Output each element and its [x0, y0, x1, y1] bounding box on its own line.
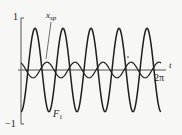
series-label-xsp: xsp [46, 11, 56, 22]
series-label-f1: F1 [53, 109, 63, 121]
x-axis-label: t [169, 61, 172, 70]
xsp-label-leader [46, 22, 51, 59]
y-tick-label-top: 1 [13, 12, 18, 22]
series-label-f1-sub: 1 [59, 113, 63, 121]
x-tick-label-2pi: 2π [154, 73, 164, 83]
series-label-xsp-sub: sp [50, 14, 56, 22]
chart-plot-area [0, 0, 182, 135]
annotation-dot [127, 56, 129, 58]
y-tick-label-bottom: −1 [5, 119, 16, 129]
